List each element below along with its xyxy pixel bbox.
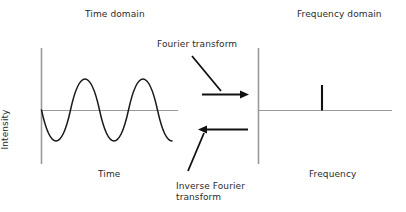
fourier-transform-label: Fourier transform <box>157 39 237 50</box>
time-domain-title: Time domain <box>85 9 145 20</box>
frequency-domain-title: Frequency domain <box>297 9 382 20</box>
inverse-fourier-transform-label: Inverse Fourier transform <box>176 181 256 203</box>
inverse-label-leader-line <box>188 133 204 171</box>
transform-arrows <box>188 56 249 171</box>
time-domain-plot <box>42 48 179 164</box>
inverse-arrow-head-icon <box>198 126 207 134</box>
intensity-axis-label: Intensity <box>0 109 11 149</box>
frequency-axis-label: Frequency <box>309 169 356 180</box>
frequency-domain-plot <box>259 48 393 164</box>
time-axis-label: Time <box>98 169 120 180</box>
forward-arrow-head-icon <box>240 91 249 99</box>
forward-label-leader-line <box>192 56 221 91</box>
fourier-transform-diagram: Time domain Frequency domain Fourier tra… <box>0 0 406 212</box>
